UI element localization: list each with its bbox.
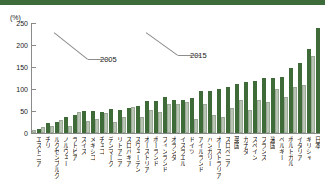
bar-2015[interactable] xyxy=(127,108,131,133)
bar-2015[interactable] xyxy=(253,81,257,133)
bar-2005[interactable] xyxy=(122,117,126,133)
bar-2015[interactable] xyxy=(118,110,122,133)
bar-2015[interactable] xyxy=(37,129,41,133)
bar-2005[interactable] xyxy=(284,97,288,133)
bar-group xyxy=(239,23,248,133)
bar-2015[interactable] xyxy=(262,78,266,133)
bar-2015[interactable] xyxy=(55,122,59,133)
x-axis-label: オランダ xyxy=(167,136,176,196)
bar-2015[interactable] xyxy=(208,91,212,133)
bar-2015[interactable] xyxy=(298,63,302,133)
bar-2005[interactable] xyxy=(77,112,81,133)
bar-2005[interactable] xyxy=(149,110,153,133)
bar-2005[interactable] xyxy=(293,87,297,133)
bar-2015[interactable] xyxy=(280,77,284,133)
bar-2005[interactable] xyxy=(248,110,252,133)
bar-2005[interactable] xyxy=(230,108,234,133)
bar-group xyxy=(50,23,59,133)
bar-group xyxy=(95,23,104,133)
x-axis-label: エストニア xyxy=(32,136,41,196)
bar-2005[interactable] xyxy=(239,100,243,133)
bar-group xyxy=(41,23,50,133)
bar-2005[interactable] xyxy=(41,127,45,133)
bar-2005[interactable] xyxy=(212,115,216,133)
bar-2015[interactable] xyxy=(316,28,320,133)
bar-2015[interactable] xyxy=(46,123,50,133)
x-axis-label: ラトビア xyxy=(68,136,77,196)
bar-2005[interactable] xyxy=(203,104,207,133)
bar-2015[interactable] xyxy=(181,100,185,133)
bar-group xyxy=(248,23,257,133)
bar-2005[interactable] xyxy=(131,107,135,133)
bar-group xyxy=(221,23,230,133)
bar-2015[interactable] xyxy=(154,101,158,133)
bar-group xyxy=(284,23,293,133)
bar-group xyxy=(68,23,77,133)
x-axis-line xyxy=(31,133,320,134)
bar-2015[interactable] xyxy=(163,97,167,133)
bar-group xyxy=(104,23,113,133)
y-axis-tick-label: 50 xyxy=(2,108,28,115)
x-axis-label: フランス xyxy=(257,136,266,196)
x-axis-label: オーストラリア xyxy=(212,136,221,196)
y-axis-tick-label: 150 xyxy=(2,64,28,71)
bar-2005[interactable] xyxy=(311,56,315,133)
bar-2005[interactable] xyxy=(185,102,189,133)
bar-group xyxy=(113,23,122,133)
x-axis-label: ノルウェー xyxy=(59,136,68,196)
bar-2005[interactable] xyxy=(68,126,72,133)
bar-2005[interactable] xyxy=(95,119,99,133)
bar-2005[interactable] xyxy=(113,122,117,133)
bar-2015[interactable] xyxy=(82,111,86,133)
x-axis-label: ギリシャ xyxy=(302,136,311,196)
bar-2005[interactable] xyxy=(167,104,171,133)
bar-2015[interactable] xyxy=(100,112,104,133)
bar-2015[interactable] xyxy=(136,106,140,133)
bar-2005[interactable] xyxy=(275,89,279,133)
bar-2015[interactable] xyxy=(64,117,68,133)
bar-2015[interactable] xyxy=(73,115,77,133)
x-axis-label: オーストリア xyxy=(140,136,149,196)
bar-2015[interactable] xyxy=(226,87,230,133)
bar-group xyxy=(185,23,194,133)
bar-group xyxy=(311,23,320,133)
y-axis-tick-label: 250 xyxy=(2,20,28,27)
bar-2005[interactable] xyxy=(176,104,180,133)
x-axis-label: スイス xyxy=(77,136,86,196)
bar-2015[interactable] xyxy=(289,68,293,133)
bar-2005[interactable] xyxy=(194,119,198,133)
bar-2015[interactable] xyxy=(91,111,95,133)
bar-2015[interactable] xyxy=(145,101,149,133)
bar-2015[interactable] xyxy=(109,109,113,133)
bar-2015[interactable] xyxy=(244,82,248,133)
bar-2005[interactable] xyxy=(50,126,54,133)
bar-2015[interactable] xyxy=(190,98,194,133)
bar-2005[interactable] xyxy=(257,100,261,133)
bar-2005[interactable] xyxy=(266,102,270,133)
bar-2015[interactable] xyxy=(199,91,203,133)
bar-2005[interactable] xyxy=(86,121,90,133)
bar-2015[interactable] xyxy=(172,100,176,133)
bar-2005[interactable] xyxy=(104,113,108,133)
x-axis-label: アイルランド xyxy=(194,136,203,196)
bar-2015[interactable] xyxy=(217,89,221,133)
x-axis-label: ベルギー xyxy=(275,136,284,196)
plot-area xyxy=(32,23,320,133)
bar-group xyxy=(230,23,239,133)
bar-2005[interactable] xyxy=(221,117,225,133)
bar-2015[interactable] xyxy=(235,84,239,133)
bar-2015[interactable] xyxy=(271,78,275,133)
bar-2005[interactable] xyxy=(140,117,144,133)
bar-group xyxy=(86,23,95,133)
x-axis-label: ドイツ xyxy=(185,136,194,196)
bar-2015[interactable] xyxy=(307,49,311,133)
x-axis-label: 日本 xyxy=(311,136,320,196)
bar-2005[interactable] xyxy=(158,112,162,133)
bar-2005[interactable] xyxy=(302,85,306,133)
bar-group xyxy=(176,23,185,133)
bar-group xyxy=(275,23,284,133)
bar-2005[interactable] xyxy=(59,120,63,133)
bar-group xyxy=(293,23,302,133)
bar-group xyxy=(77,23,86,133)
bar-2005[interactable] xyxy=(32,130,36,133)
